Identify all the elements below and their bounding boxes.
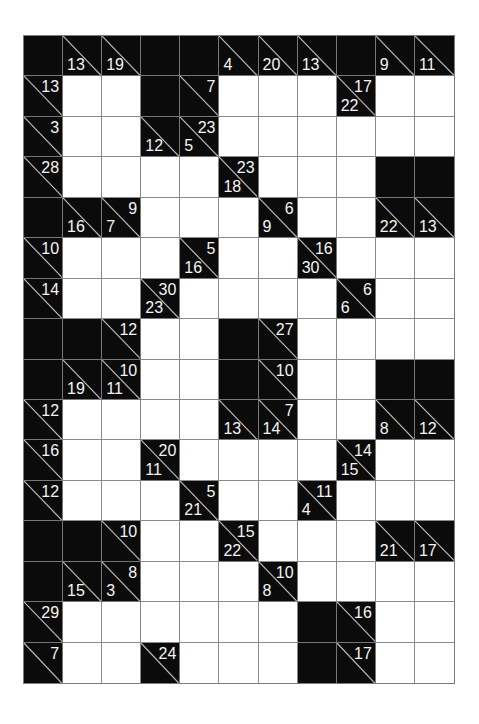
entry-cell[interactable] — [102, 400, 141, 440]
entry-cell[interactable] — [337, 360, 376, 400]
entry-cell[interactable] — [298, 521, 337, 561]
entry-cell[interactable] — [298, 319, 337, 359]
entry-cell[interactable] — [180, 643, 219, 683]
entry-cell[interactable] — [219, 481, 258, 521]
entry-cell[interactable] — [259, 521, 298, 561]
entry-cell[interactable] — [298, 198, 337, 238]
entry-cell[interactable] — [63, 481, 102, 521]
entry-cell[interactable] — [102, 602, 141, 642]
entry-cell[interactable] — [298, 279, 337, 319]
entry-cell[interactable] — [102, 440, 141, 480]
entry-cell[interactable] — [415, 279, 454, 319]
entry-cell[interactable] — [219, 76, 258, 116]
entry-cell[interactable] — [219, 602, 258, 642]
entry-cell[interactable] — [376, 562, 415, 602]
entry-cell[interactable] — [337, 198, 376, 238]
entry-cell[interactable] — [376, 481, 415, 521]
entry-cell[interactable] — [63, 602, 102, 642]
entry-cell[interactable] — [415, 117, 454, 157]
entry-cell[interactable] — [63, 440, 102, 480]
entry-cell[interactable] — [259, 481, 298, 521]
entry-cell[interactable] — [376, 279, 415, 319]
entry-cell[interactable] — [376, 319, 415, 359]
entry-cell[interactable] — [141, 400, 180, 440]
entry-cell[interactable] — [298, 562, 337, 602]
entry-cell[interactable] — [415, 76, 454, 116]
entry-cell[interactable] — [219, 279, 258, 319]
entry-cell[interactable] — [63, 400, 102, 440]
entry-cell[interactable] — [337, 238, 376, 278]
entry-cell[interactable] — [180, 440, 219, 480]
entry-cell[interactable] — [180, 562, 219, 602]
entry-cell[interactable] — [102, 643, 141, 683]
entry-cell[interactable] — [415, 562, 454, 602]
entry-cell[interactable] — [259, 440, 298, 480]
entry-cell[interactable] — [63, 238, 102, 278]
entry-cell[interactable] — [102, 76, 141, 116]
entry-cell[interactable] — [298, 117, 337, 157]
entry-cell[interactable] — [337, 521, 376, 561]
entry-cell[interactable] — [415, 643, 454, 683]
entry-cell[interactable] — [102, 279, 141, 319]
entry-cell[interactable] — [63, 117, 102, 157]
entry-cell[interactable] — [219, 117, 258, 157]
entry-cell[interactable] — [180, 157, 219, 197]
entry-cell[interactable] — [376, 76, 415, 116]
entry-cell[interactable] — [141, 562, 180, 602]
entry-cell[interactable] — [141, 157, 180, 197]
entry-cell[interactable] — [63, 643, 102, 683]
entry-cell[interactable] — [180, 279, 219, 319]
entry-cell[interactable] — [219, 440, 258, 480]
entry-cell[interactable] — [180, 319, 219, 359]
entry-cell[interactable] — [219, 238, 258, 278]
entry-cell[interactable] — [259, 643, 298, 683]
entry-cell[interactable] — [259, 279, 298, 319]
entry-cell[interactable] — [141, 360, 180, 400]
entry-cell[interactable] — [141, 602, 180, 642]
entry-cell[interactable] — [180, 400, 219, 440]
entry-cell[interactable] — [102, 481, 141, 521]
entry-cell[interactable] — [259, 76, 298, 116]
entry-cell[interactable] — [219, 562, 258, 602]
entry-cell[interactable] — [63, 279, 102, 319]
entry-cell[interactable] — [298, 360, 337, 400]
entry-cell[interactable] — [259, 117, 298, 157]
entry-cell[interactable] — [180, 521, 219, 561]
entry-cell[interactable] — [415, 440, 454, 480]
entry-cell[interactable] — [376, 440, 415, 480]
entry-cell[interactable] — [259, 238, 298, 278]
entry-cell[interactable] — [180, 602, 219, 642]
entry-cell[interactable] — [63, 157, 102, 197]
entry-cell[interactable] — [298, 76, 337, 116]
entry-cell[interactable] — [102, 117, 141, 157]
entry-cell[interactable] — [141, 198, 180, 238]
entry-cell[interactable] — [415, 481, 454, 521]
entry-cell[interactable] — [415, 602, 454, 642]
entry-cell[interactable] — [415, 238, 454, 278]
entry-cell[interactable] — [337, 562, 376, 602]
entry-cell[interactable] — [298, 440, 337, 480]
entry-cell[interactable] — [298, 157, 337, 197]
entry-cell[interactable] — [376, 238, 415, 278]
entry-cell[interactable] — [259, 602, 298, 642]
entry-cell[interactable] — [376, 117, 415, 157]
entry-cell[interactable] — [337, 117, 376, 157]
entry-cell[interactable] — [337, 400, 376, 440]
entry-cell[interactable] — [376, 602, 415, 642]
entry-cell[interactable] — [259, 157, 298, 197]
entry-cell[interactable] — [180, 360, 219, 400]
entry-cell[interactable] — [219, 643, 258, 683]
entry-cell[interactable] — [298, 400, 337, 440]
entry-cell[interactable] — [141, 481, 180, 521]
entry-cell[interactable] — [337, 157, 376, 197]
entry-cell[interactable] — [63, 76, 102, 116]
entry-cell[interactable] — [180, 198, 219, 238]
entry-cell[interactable] — [376, 643, 415, 683]
entry-cell[interactable] — [102, 157, 141, 197]
entry-cell[interactable] — [141, 521, 180, 561]
entry-cell[interactable] — [141, 319, 180, 359]
entry-cell[interactable] — [219, 198, 258, 238]
entry-cell[interactable] — [337, 319, 376, 359]
entry-cell[interactable] — [141, 238, 180, 278]
entry-cell[interactable] — [337, 481, 376, 521]
